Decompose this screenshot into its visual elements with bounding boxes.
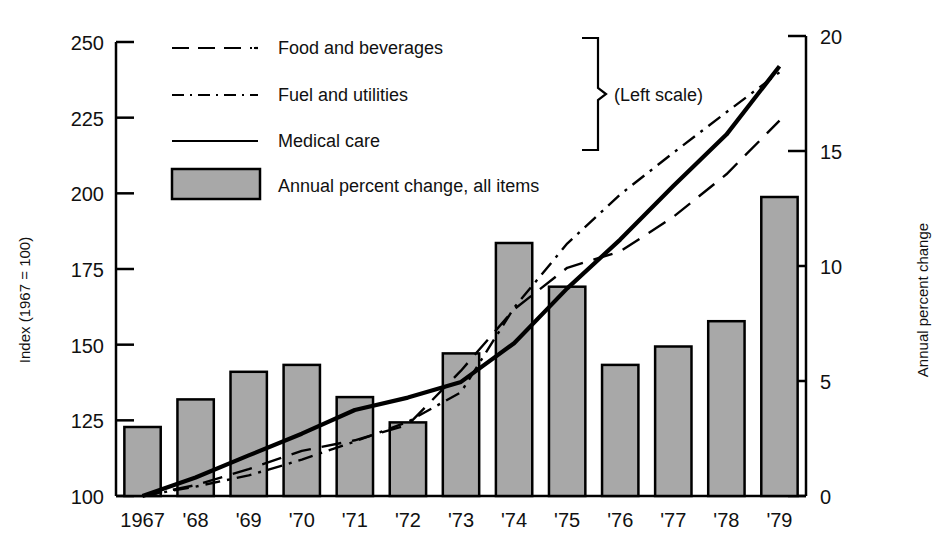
chart-legend: Food and beverages Fuel and utilities Me… xyxy=(172,38,703,199)
bar xyxy=(761,197,797,496)
bar xyxy=(284,365,320,496)
legend-label-food-and-beverages: Food and beverages xyxy=(278,38,443,58)
legend-brace xyxy=(582,38,606,150)
bar xyxy=(496,243,532,496)
bar xyxy=(231,372,267,496)
bar xyxy=(602,365,638,496)
x-tick-label: '79 xyxy=(766,509,792,531)
legend-swatch-annual-percent-change xyxy=(172,169,260,199)
x-tick-label: '73 xyxy=(448,509,474,531)
left-tick-label: 100 xyxy=(71,486,104,508)
legend-brace-label: (Left scale) xyxy=(614,85,703,105)
bar xyxy=(549,287,585,496)
cpi-index-chart: 250225200175150125100 20151050 Index (19… xyxy=(0,0,952,556)
x-tick-label: '76 xyxy=(607,509,633,531)
bar xyxy=(390,422,426,496)
bar-series xyxy=(124,197,797,496)
legend-label-fuel-and-utilities: Fuel and utilities xyxy=(278,85,408,105)
bar xyxy=(708,321,744,496)
left-tick-label: 250 xyxy=(71,32,104,54)
left-tick-label: 200 xyxy=(71,183,104,205)
left-tick-label: 150 xyxy=(71,335,104,357)
right-tick-label: 15 xyxy=(820,141,842,163)
x-tick-label: '74 xyxy=(501,509,527,531)
x-axis-tick-labels: 1967'68'69'70'71'72'73'74'75'76'77'78'79 xyxy=(120,509,792,531)
bar xyxy=(124,427,160,496)
x-tick-label: '69 xyxy=(236,509,262,531)
right-tick-label: 10 xyxy=(820,256,842,278)
legend-label-medical-care: Medical care xyxy=(278,131,380,151)
x-tick-label: '68 xyxy=(183,509,209,531)
right-tick-label: 0 xyxy=(820,486,831,508)
left-tick-label: 125 xyxy=(71,410,104,432)
x-tick-label: '70 xyxy=(289,509,315,531)
right-axis-title: Annual percent change xyxy=(914,223,931,377)
x-tick-label: '78 xyxy=(713,509,739,531)
x-tick-label: '75 xyxy=(554,509,580,531)
x-tick-label: '71 xyxy=(342,509,368,531)
bar xyxy=(655,347,691,497)
left-tick-label: 225 xyxy=(71,108,104,130)
right-tick-label: 20 xyxy=(820,26,842,48)
legend-label-annual-percent-change: Annual percent change, all items xyxy=(278,176,539,196)
x-tick-label: 1967 xyxy=(120,509,165,531)
left-axis-title: Index (1967 = 100) xyxy=(16,237,33,363)
chart-container: 250225200175150125100 20151050 Index (19… xyxy=(0,0,952,556)
x-tick-label: '72 xyxy=(395,509,421,531)
right-tick-label: 5 xyxy=(820,371,831,393)
x-tick-label: '77 xyxy=(660,509,686,531)
left-tick-label: 175 xyxy=(71,259,104,281)
